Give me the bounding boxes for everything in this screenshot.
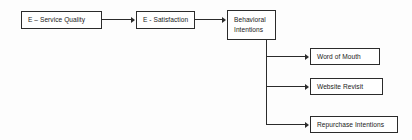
node-behavioral-intentions-label: Behavioral Intentions — [234, 15, 266, 34]
arrow-head-icon-repurchase-intentions — [305, 122, 309, 128]
node-service-quality[interactable]: E – Service Quality — [21, 11, 102, 29]
node-website-revisit-label: Website Revisit — [317, 82, 363, 92]
node-service-quality-label: E – Service Quality — [28, 15, 85, 25]
arrow-head-icon-word-of-mouth — [305, 54, 309, 60]
edge-service-quality-to-satisfaction — [102, 19, 132, 20]
arrow-head-icon-website-revisit — [305, 84, 309, 90]
edge-behavioral-intentions-to-repurchase-intentions — [266, 124, 306, 125]
node-word-of-mouth-label: Word of Mouth — [317, 52, 361, 62]
node-repurchase-intentions-label: Repurchase Intentions — [317, 120, 384, 130]
edge-satisfaction-to-behavioral-intentions — [195, 19, 222, 20]
flowchart-diagram: E – Service Quality E - Satisfaction Beh… — [0, 0, 412, 140]
node-word-of-mouth[interactable]: Word of Mouth — [310, 48, 380, 65]
node-website-revisit[interactable]: Website Revisit — [310, 78, 383, 95]
edge-behavioral-intentions-to-website-revisit — [266, 86, 306, 87]
edge-trunk-vertical — [266, 40, 267, 125]
node-satisfaction[interactable]: E - Satisfaction — [136, 11, 195, 29]
node-repurchase-intentions[interactable]: Repurchase Intentions — [310, 116, 398, 133]
node-satisfaction-label: E - Satisfaction — [143, 15, 188, 25]
arrow-head-icon-behavioral-intentions — [222, 17, 226, 23]
node-behavioral-intentions[interactable]: Behavioral Intentions — [227, 10, 276, 40]
arrow-head-icon-satisfaction — [131, 17, 135, 23]
edge-behavioral-intentions-to-word-of-mouth — [266, 56, 306, 57]
